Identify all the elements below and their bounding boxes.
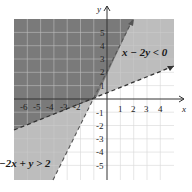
annotation-ineq2: −2x + y > 2 <box>0 157 51 169</box>
svg-text:-4: -4 <box>46 102 54 112</box>
svg-text:1: 1 <box>100 81 105 91</box>
svg-text:-1: -1 <box>96 108 104 118</box>
svg-text:-3: -3 <box>96 134 104 144</box>
svg-text:-3: -3 <box>60 102 68 112</box>
svg-text:-2: -2 <box>73 102 81 112</box>
svg-text:3: 3 <box>100 54 105 64</box>
svg-text:-5: -5 <box>96 161 104 171</box>
annotation-ineq1: x − 2y < 0 <box>121 46 168 58</box>
y-axis-label: y <box>96 4 101 14</box>
svg-text:-5: -5 <box>33 102 41 112</box>
svg-text:5: 5 <box>100 28 105 38</box>
inequality-graph: x y -6 -5 -4 -3 -2 1 2 3 4 5 4 3 2 1 -1 … <box>0 0 192 192</box>
svg-text:-6: -6 <box>20 102 28 112</box>
svg-text:4: 4 <box>158 104 163 114</box>
x-axis-label: x <box>181 104 186 114</box>
svg-text:1: 1 <box>118 104 123 114</box>
svg-text:-2: -2 <box>96 121 104 131</box>
svg-text:2: 2 <box>131 104 136 114</box>
svg-text:2: 2 <box>100 67 105 77</box>
svg-text:3: 3 <box>144 104 149 114</box>
svg-text:-4: -4 <box>96 147 104 157</box>
svg-text:4: 4 <box>100 41 105 51</box>
